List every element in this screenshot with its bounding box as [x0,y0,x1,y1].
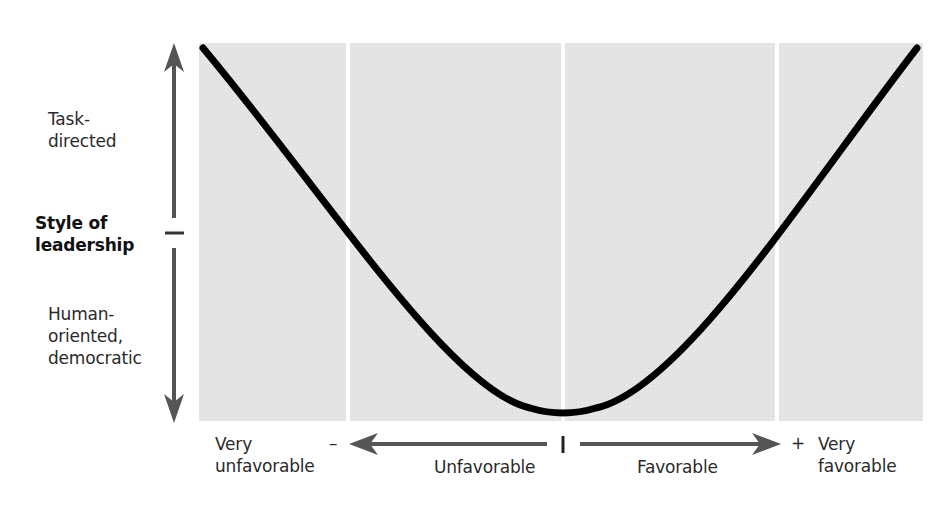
label-very-favorable: Very favorable [818,433,896,477]
label-task-directed: Task- directed [48,108,116,152]
leadership-diagram [0,0,952,505]
horizontal-axis [349,433,781,455]
plus-sign: + [791,432,805,454]
minus-sign: – [329,432,337,454]
vertical-axis [164,43,184,423]
label-favorable: Favorable [637,456,718,478]
label-human-oriented: Human- oriented, democratic [48,303,142,369]
label-unfavorable: Unfavorable [434,456,535,478]
divider-2 [561,43,565,421]
label-very-unfavorable: Very unfavorable [215,433,315,477]
y-axis-title: Style of leadership [35,212,134,256]
